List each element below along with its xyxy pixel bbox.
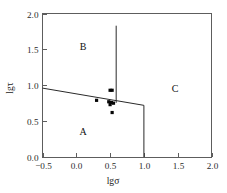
region-label-a: A — [79, 126, 87, 137]
x-tick-label: 1.0 — [139, 161, 151, 171]
region-boundaries — [43, 26, 144, 157]
data-point — [112, 102, 115, 105]
region-label-b: B — [80, 41, 87, 52]
y-tick-label: 0.0 — [27, 153, 39, 163]
ab-sloping-boundary — [43, 88, 144, 105]
x-axis-ticks — [44, 153, 213, 157]
chart-container: −0.50.00.51.01.52.0 0.00.51.01.52.0 ABC … — [0, 0, 227, 193]
y-axis-ticks — [43, 15, 47, 158]
y-tick-label: 2.0 — [27, 10, 39, 20]
data-point-series — [95, 89, 115, 114]
x-tick-label: 0.5 — [105, 161, 117, 171]
y-tick-label: 1.5 — [27, 45, 39, 55]
x-tick-label: 0.0 — [71, 161, 83, 171]
y-axis-tick-labels: 0.00.51.01.52.0 — [27, 10, 39, 163]
y-tick-label: 1.0 — [27, 81, 39, 91]
data-point — [109, 103, 112, 106]
data-point — [95, 99, 98, 102]
region-labels: ABC — [79, 41, 178, 137]
x-axis-title: lgσ — [107, 175, 120, 186]
data-point — [111, 89, 114, 92]
y-axis-title: lgτ — [4, 82, 15, 93]
data-point — [111, 111, 114, 114]
scatter-chart: −0.50.00.51.01.52.0 0.00.51.01.52.0 ABC … — [0, 0, 227, 193]
x-axis-tick-labels: −0.50.00.51.01.52.0 — [35, 161, 218, 171]
region-label-c: C — [172, 83, 179, 94]
y-tick-label: 0.5 — [27, 117, 39, 127]
x-tick-label: 1.5 — [173, 161, 185, 171]
plot-frame — [43, 14, 212, 158]
x-tick-label: 2.0 — [207, 161, 219, 171]
